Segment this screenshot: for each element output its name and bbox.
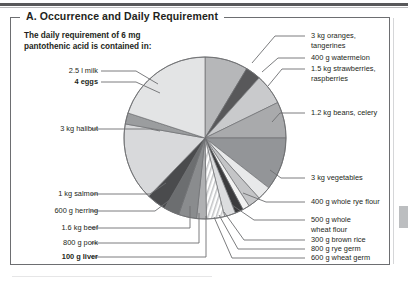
- page-edge-thumb-tab: [399, 206, 408, 228]
- label-pork: 800 g pork: [12, 238, 98, 247]
- label-wheat-flour-line1: 500 g whole: [311, 215, 351, 224]
- label-oranges-line2: tangerines: [311, 41, 346, 50]
- label-beef: 1.6 kg beef: [12, 223, 98, 232]
- label-wheat-germ: 600 g wheat germ: [311, 253, 370, 262]
- page-edge-rule: [393, 18, 394, 264]
- caption-line-2: pantothenic acid is contained in:: [24, 41, 199, 52]
- label-beans: 1.2 kg beans, celery: [311, 108, 377, 117]
- page-top-rule-thin: [0, 7, 408, 8]
- figure-caption: The daily requirement of 6 mg pantotheni…: [24, 30, 199, 52]
- label-rye-germ: 800 g rye germ: [311, 244, 361, 253]
- label-watermelon: 400 g watermelon: [311, 53, 370, 62]
- label-strawberries-line2: raspberries: [311, 74, 348, 83]
- label-oranges-line1: 3 kg oranges,: [311, 31, 356, 40]
- panel-title: A. Occurrence and Daily Requirement: [20, 10, 224, 22]
- label-rye-flour: 400 g whole rye flour: [311, 197, 380, 206]
- label-brown-rice: 300 g brown rice: [311, 235, 366, 244]
- label-wheat-flour-line2: wheat flour: [311, 225, 347, 234]
- caption-line-1: The daily requirement of 6 mg: [24, 30, 199, 41]
- label-strawberries-line1: 1.5 kg strawberries,: [311, 64, 376, 73]
- figure-root: A. Occurrence and Daily Requirement The …: [0, 0, 408, 283]
- label-milk: 2.5 l milk: [20, 66, 98, 75]
- page-bottom-rule: [12, 276, 212, 277]
- label-halibut: 3 kg halibut: [12, 124, 98, 133]
- label-vegetables: 3 kg vegetables: [311, 173, 363, 182]
- page-top-rule: [0, 3, 408, 6]
- label-liver: 100 g liver: [12, 252, 98, 261]
- label-salmon: 1 kg salmon: [12, 189, 98, 198]
- label-eggs: 4 eggs: [20, 77, 98, 86]
- label-herring: 600 g herring: [12, 206, 98, 215]
